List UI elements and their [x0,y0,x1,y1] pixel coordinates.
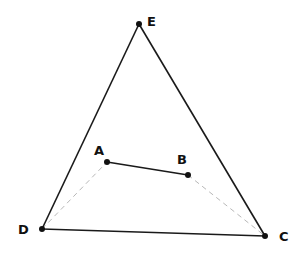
point-B [185,172,191,178]
segment-EC [139,24,265,236]
segment-DC [42,229,265,236]
label-B: B [177,152,187,167]
label-C: C [279,229,289,244]
segment-BC [188,175,265,236]
segment-AB [107,162,188,175]
point-C [262,233,268,239]
label-D: D [18,222,29,237]
segment-DA [42,162,107,229]
geometry-diagram: E A B D C [0,0,307,256]
point-E [136,21,142,27]
point-D [39,226,45,232]
label-A: A [94,143,104,158]
label-E: E [147,14,156,29]
point-A [104,159,110,165]
segment-DE [42,24,139,229]
